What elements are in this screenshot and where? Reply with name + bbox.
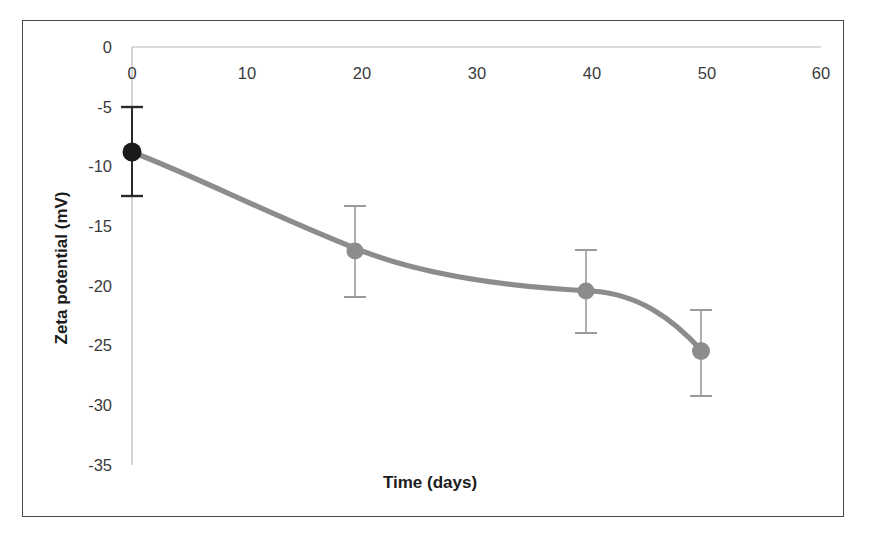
- data-line: [132, 152, 702, 351]
- x-tick-label-20: 20: [353, 64, 371, 83]
- y-tick-label-m10: -10: [70, 157, 112, 176]
- figure-canvas: 0 -5 -10 -15 -20 -25 -30 -35 0 10 20 30 …: [0, 0, 871, 553]
- x-tick-label-50: 50: [698, 64, 716, 83]
- y-tick-label-m5: -5: [70, 98, 112, 117]
- data-point-day-50: [692, 342, 710, 360]
- x-tick-label-0: 0: [127, 64, 136, 83]
- y-tick-label-m20: -20: [70, 277, 112, 296]
- x-tick-label-30: 30: [468, 64, 486, 83]
- y-tick-label-m30: -30: [70, 396, 112, 415]
- x-axis-title: Time (days): [383, 473, 477, 493]
- y-axis-title: Zeta potential (mV): [52, 191, 72, 344]
- data-point-day-20: [347, 243, 364, 260]
- y-tick-label-m35: -35: [70, 456, 112, 475]
- y-tick-label-m25: -25: [70, 336, 112, 355]
- x-tick-label-10: 10: [238, 64, 256, 83]
- data-point-day-0: [123, 143, 142, 162]
- y-tick-label-0: 0: [70, 38, 112, 57]
- chart-plot: [0, 0, 871, 553]
- y-tick-label-m15: -15: [70, 217, 112, 236]
- x-tick-label-40: 40: [583, 64, 601, 83]
- x-tick-label-60: 60: [812, 64, 830, 83]
- data-point-day-40: [578, 283, 595, 300]
